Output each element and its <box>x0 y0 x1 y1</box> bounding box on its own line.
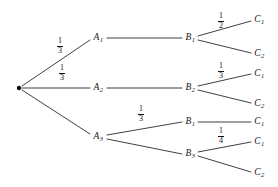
root-node-dot <box>17 86 21 90</box>
node-letter: C <box>254 14 260 24</box>
probability-label-p-root-A1: 13 <box>57 37 63 55</box>
node-subscript: 2 <box>261 102 264 109</box>
node-label-B3: B3 <box>185 149 194 159</box>
node-letter: B <box>185 82 191 92</box>
node-label-C2b: C2 <box>254 99 264 109</box>
probability-label-p-root-A2: 13 <box>59 64 65 82</box>
node-label-C1d: C1 <box>254 137 264 147</box>
node-subscript: 3 <box>192 152 195 159</box>
tree-edges-canvas <box>0 0 278 187</box>
node-label-A2: A2 <box>93 83 102 93</box>
tree-edge-root-A1 <box>22 40 90 86</box>
node-letter: C <box>254 68 260 78</box>
node-letter: C <box>254 98 260 108</box>
node-subscript: 2 <box>192 86 195 93</box>
node-subscript: 3 <box>100 135 103 142</box>
node-subscript: 1 <box>261 120 264 127</box>
node-letter: B <box>185 148 191 158</box>
probability-label-p-B3-C1d: 14 <box>218 127 224 145</box>
node-label-C1a: C1 <box>254 15 264 25</box>
node-letter: A <box>93 82 99 92</box>
tree-edge-B2-C2b <box>198 90 251 103</box>
node-subscript: 2 <box>261 171 264 178</box>
node-subscript: 1 <box>261 18 264 25</box>
node-subscript: 1 <box>261 72 264 79</box>
tree-edge-B3-C1d <box>198 142 251 152</box>
node-letter: A <box>93 131 99 141</box>
node-letter: C <box>254 167 260 177</box>
node-letter: B <box>185 116 191 126</box>
node-subscript: 1 <box>192 36 195 43</box>
node-letter: B <box>185 32 191 42</box>
node-letter: C <box>254 136 260 146</box>
node-label-A1: A1 <box>93 33 102 43</box>
tree-edge-root-A3 <box>22 90 90 134</box>
fraction-denominator: 3 <box>57 47 63 56</box>
node-label-B1b: B1 <box>185 117 194 127</box>
tree-edge-B1a-C2a <box>198 40 251 53</box>
node-letter: C <box>254 116 260 126</box>
node-label-C1b: C1 <box>254 69 264 79</box>
node-label-B1a: B1 <box>185 33 194 43</box>
node-label-B2: B2 <box>185 83 194 93</box>
node-label-A3: A3 <box>93 132 102 142</box>
node-letter: C <box>254 48 260 58</box>
node-subscript: 1 <box>261 140 264 147</box>
probability-label-p-B1a-C1a: 12 <box>218 12 224 30</box>
tree-edge-B2-C1b <box>198 74 251 86</box>
node-subscript: 2 <box>100 86 103 93</box>
tree-edge-A3-B1b <box>107 122 182 135</box>
probability-tree-diagram: A1A2A3B1B2B1B3C1C2C1C2C1C1C2 13131312131… <box>0 0 278 187</box>
fraction-denominator: 4 <box>218 137 224 146</box>
node-label-C1c: C1 <box>254 117 264 127</box>
node-label-C2a: C2 <box>254 49 264 59</box>
fraction-denominator: 3 <box>59 74 65 83</box>
fraction-denominator: 2 <box>218 22 224 31</box>
probability-label-p-A3-B1b: 13 <box>138 105 144 123</box>
tree-edge-B3-C2c <box>198 156 251 172</box>
fraction-denominator: 3 <box>218 72 224 81</box>
fraction-denominator: 3 <box>138 115 144 124</box>
node-label-C2c: C2 <box>254 168 264 178</box>
node-subscript: 2 <box>261 52 264 59</box>
node-subscript: 1 <box>100 36 103 43</box>
tree-edge-A3-B3 <box>107 139 182 154</box>
probability-label-p-B2-C1b: 13 <box>218 62 224 80</box>
node-subscript: 1 <box>192 120 195 127</box>
tree-edge-B1a-C1a <box>198 21 251 36</box>
node-letter: A <box>93 32 99 42</box>
